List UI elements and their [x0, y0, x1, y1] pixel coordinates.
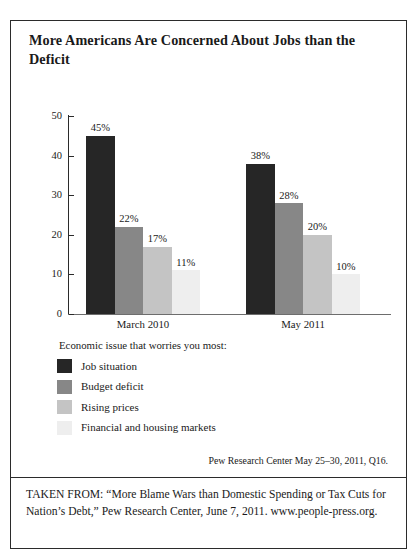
y-axis-tick-mark	[69, 195, 74, 196]
y-axis-tick-mark	[69, 314, 74, 315]
chart-legend: Economic issue that worries you most: Jo…	[57, 339, 387, 438]
legend-heading: Economic issue that worries you most:	[57, 339, 387, 351]
y-axis-tick-label: 10	[52, 269, 63, 280]
bar-value-label: 22%	[119, 214, 138, 225]
page-title: More Americans Are Concerned About Jobs …	[29, 31, 374, 70]
y-axis-tick-mark	[69, 235, 74, 236]
legend-rows: Job situationBudget deficitRising prices…	[57, 356, 387, 438]
y-axis-tick-mark	[69, 116, 74, 117]
legend-label: Budget deficit	[81, 381, 144, 392]
legend-swatch	[57, 359, 72, 373]
legend-item: Budget deficit	[57, 377, 387, 398]
bar: 20%	[303, 235, 332, 314]
bar: 10%	[332, 274, 361, 314]
bar-value-label: 20%	[308, 222, 327, 233]
bar: 28%	[275, 203, 304, 314]
legend-label: Job situation	[81, 361, 137, 372]
bar: 22%	[115, 227, 144, 314]
legend-swatch	[57, 400, 72, 414]
legend-swatch	[57, 421, 72, 435]
bar: 11%	[172, 270, 201, 314]
chart-axes: 01020304050 45%22%17%11%38%28%20%10% Mar…	[68, 116, 391, 314]
legend-item: Financial and housing markets	[57, 418, 387, 439]
y-axis-tick-label: 50	[52, 111, 63, 122]
bar-value-label: 28%	[279, 191, 298, 202]
y-axis-tick-mark	[69, 274, 74, 275]
y-axis-tick-label: 40	[52, 150, 63, 161]
legend-label: Financial and housing markets	[81, 422, 216, 433]
y-axis-line	[68, 115, 69, 315]
y-axis-tick-label: 0	[57, 309, 62, 320]
figure-frame: More Americans Are Concerned About Jobs …	[10, 20, 407, 549]
bar: 45%	[86, 136, 115, 314]
bar-value-label: 45%	[91, 123, 110, 134]
bar: 38%	[246, 164, 275, 314]
x-axis-category-label: May 2011	[281, 318, 325, 330]
bar-value-label: 38%	[251, 151, 270, 162]
legend-item: Rising prices	[57, 397, 387, 418]
y-axis-tick-label: 30	[52, 190, 63, 201]
source-note: Pew Research Center May 25–30, 2011, Q16…	[209, 455, 388, 466]
legend-label: Rising prices	[81, 402, 139, 413]
y-axis-tick-label: 20	[52, 230, 63, 241]
figure-caption: TAKEN FROM: “More Blame Wars than Domest…	[26, 487, 391, 521]
x-axis-category-label: March 2010	[117, 318, 169, 330]
legend-item: Job situation	[57, 356, 387, 377]
panel-divider	[11, 477, 406, 478]
bar: 17%	[143, 247, 172, 314]
y-axis-tick-mark	[69, 156, 74, 157]
bar-value-label: 10%	[336, 262, 355, 273]
bar-value-label: 17%	[148, 234, 167, 245]
chart-plot-area: 01020304050 45%22%17%11%38%28%20%10% Mar…	[11, 91, 406, 336]
bar-value-label: 11%	[176, 258, 195, 269]
legend-swatch	[57, 380, 72, 394]
x-axis-line	[68, 314, 391, 315]
